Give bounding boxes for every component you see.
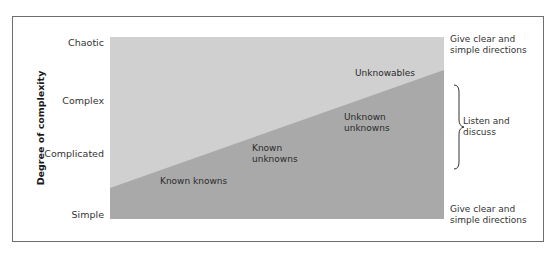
region-known-knowns: Known knowns <box>160 176 227 187</box>
region-unknowables-text: Unknowables <box>355 68 415 78</box>
region-unknowables: Unknowables <box>355 68 415 79</box>
note-simple-line1: Give clear and <box>450 204 527 215</box>
note-simple: Give clear and simple directions <box>450 204 527 226</box>
y-level-chaotic: Chaotic <box>24 37 104 48</box>
y-level-simple: Simple <box>24 209 104 220</box>
note-listen-line2: discuss <box>463 127 510 138</box>
region-known-knowns-text: Known knowns <box>160 176 227 186</box>
complexity-plot <box>110 37 444 219</box>
region-unknown-unknowns-line1: Unknown <box>344 112 390 123</box>
y-level-complicated: Complicated <box>24 148 104 159</box>
note-listen-line1: Listen and <box>463 116 510 127</box>
y-axis-title: Degree of complexity <box>35 71 46 186</box>
region-unknown-unknowns-line2: unknowns <box>344 123 390 134</box>
region-known-unknowns-line1: Known <box>252 143 298 154</box>
note-chaotic: Give clear and simple directions <box>450 34 527 56</box>
note-listen: Listen and discuss <box>463 116 510 138</box>
region-known-unknowns: Known unknowns <box>252 143 298 165</box>
note-simple-line2: simple directions <box>450 215 527 226</box>
region-known-unknowns-line2: unknowns <box>252 154 298 165</box>
region-unknown-unknowns: Unknown unknowns <box>344 112 390 134</box>
note-chaotic-line1: Give clear and <box>450 34 527 45</box>
plot-areas <box>110 37 444 219</box>
note-chaotic-line2: simple directions <box>450 45 527 56</box>
y-level-complex: Complex <box>24 95 104 106</box>
